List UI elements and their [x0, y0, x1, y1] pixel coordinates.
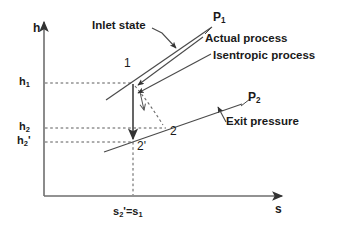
pressure-line-p1 [106, 27, 212, 100]
point-label-2: 2 [170, 125, 177, 137]
tick-label-s2-prime-eq-s1: s2'=s1 [113, 206, 143, 217]
hs-diagram: h s h1 h2 h2' s2'=s1 1 2 2' P1 P2 Inlet … [0, 0, 343, 234]
pressure-label-p2: P2 [248, 91, 261, 103]
leader-inlet-state [152, 28, 176, 48]
leader-isentropic-process [138, 54, 211, 93]
annotation-exit-pressure: Exit pressure [226, 116, 299, 128]
point-label-2-prime: 2' [137, 140, 146, 152]
gridline-group [45, 83, 166, 195]
annotation-actual-process: Actual process [205, 33, 287, 45]
pressure-label-p1: P1 [213, 11, 226, 23]
point-label-1: 1 [124, 57, 131, 69]
tick-label-h2: h2 [19, 121, 30, 132]
axis-label-h: h [33, 22, 40, 34]
leader-exit-pressure [218, 107, 226, 122]
leader-actual-process [138, 37, 203, 85]
axis-label-s: s [275, 203, 282, 215]
tick-label-h1: h1 [19, 76, 30, 87]
tick-label-h2-prime: h2' [17, 135, 31, 146]
annotation-isentropic-process: Isentropic process [213, 50, 315, 62]
annotation-inlet-state: Inlet state [92, 20, 146, 32]
